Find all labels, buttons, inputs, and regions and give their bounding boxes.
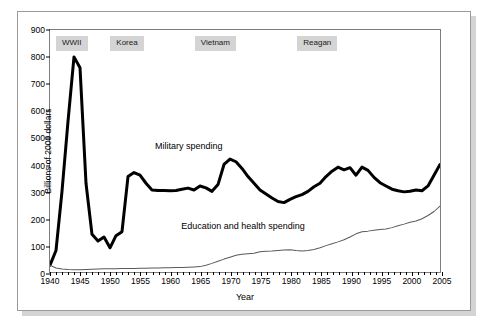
x-tick-minor [225, 272, 226, 275]
x-tick-minor [177, 272, 178, 275]
x-tick-minor [116, 272, 117, 275]
x-tick-minor [62, 272, 63, 275]
x-tick-label: 1970 [221, 277, 240, 286]
x-tick-minor [358, 272, 359, 275]
x-tick-minor [86, 272, 87, 275]
x-tick-minor [309, 272, 310, 275]
x-tick-minor [183, 272, 184, 275]
x-tick-label: 1985 [312, 277, 331, 286]
x-tick-minor [376, 272, 377, 275]
x-tick-minor [388, 272, 389, 275]
x-tick-minor [327, 272, 328, 275]
x-tick-minor [98, 272, 99, 275]
x-tick-minor [249, 272, 250, 275]
x-tick-minor [74, 272, 75, 275]
y-tick-label: 900 [31, 26, 45, 35]
x-tick-minor [285, 272, 286, 275]
x-axis-title-text: Year [236, 292, 254, 302]
x-tick-minor [189, 272, 190, 275]
x-tick-minor [219, 272, 220, 275]
y-tick-label: 800 [31, 53, 45, 62]
x-tick-label: 1950 [101, 277, 120, 286]
x-tick-label: 1965 [191, 277, 210, 286]
x-tick-minor [339, 272, 340, 275]
x-tick-minor [424, 272, 425, 275]
x-tick-minor [128, 272, 129, 275]
series-line-education-and-health-spending [50, 206, 440, 270]
x-tick-label: 1955 [131, 277, 150, 286]
x-tick-minor [333, 272, 334, 275]
x-tick-label: 1960 [161, 277, 180, 286]
x-tick-minor [195, 272, 196, 275]
x-tick-minor [315, 272, 316, 275]
y-tick-label: 100 [31, 243, 45, 252]
x-tick-minor [68, 272, 69, 275]
x-tick-minor [56, 272, 57, 275]
x-tick-minor [165, 272, 166, 275]
chart-lines [50, 30, 440, 272]
x-tick-minor [400, 272, 401, 275]
x-tick-minor [122, 272, 123, 275]
x-tick-label: 1980 [282, 277, 301, 286]
x-tick-label: 1995 [372, 277, 391, 286]
x-tick-minor [255, 272, 256, 275]
x-tick-minor [303, 272, 304, 275]
x-tick-minor [146, 272, 147, 275]
figure-frame: 0100200300400500600700800900 Billions of… [17, 11, 471, 311]
x-tick-minor [159, 272, 160, 275]
x-tick-label: 1975 [252, 277, 271, 286]
x-tick-minor [430, 272, 431, 275]
x-tick-minor [237, 272, 238, 275]
x-tick-label: 2005 [433, 277, 452, 286]
x-tick-minor [297, 272, 298, 275]
x-tick-minor [370, 272, 371, 275]
x-tick-label: 1990 [342, 277, 361, 286]
x-tick-minor [243, 272, 244, 275]
x-tick-minor [406, 272, 407, 275]
x-tick-minor [134, 272, 135, 275]
x-tick-label: 2000 [402, 277, 421, 286]
x-tick-minor [436, 272, 437, 275]
x-tick-minor [213, 272, 214, 275]
x-tick-label: 1940 [41, 277, 60, 286]
x-tick-minor [364, 272, 365, 275]
series-line-military-spending [50, 57, 440, 265]
x-tick-label: 1945 [71, 277, 90, 286]
x-tick-minor [153, 272, 154, 275]
x-tick-minor [207, 272, 208, 275]
x-tick-minor [418, 272, 419, 275]
x-tick-minor [279, 272, 280, 275]
x-tick-minor [273, 272, 274, 275]
chart-plot-area: 0100200300400500600700800900 Billions of… [49, 29, 441, 273]
x-tick-minor [104, 272, 105, 275]
y-tick-label: 700 [31, 80, 45, 89]
x-tick-minor [267, 272, 268, 275]
x-tick-minor [394, 272, 395, 275]
x-tick-minor [346, 272, 347, 275]
x-tick-minor [92, 272, 93, 275]
